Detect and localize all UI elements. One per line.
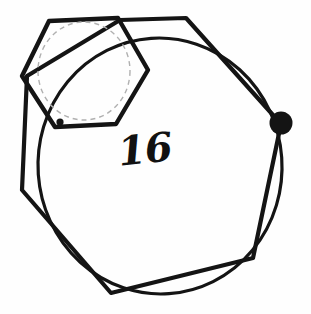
figure-number-label: 16: [116, 126, 174, 171]
figure-canvas: 16: [0, 0, 311, 314]
vertex-marker-small: [56, 118, 63, 125]
dashed-inscribed-circle: [38, 22, 130, 120]
vertex-marker-large: [270, 112, 293, 135]
small-hexagon: [22, 18, 148, 127]
